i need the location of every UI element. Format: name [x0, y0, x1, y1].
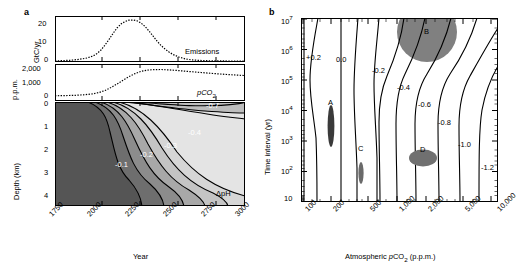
- contour-label-a-0p1: -0.1: [115, 160, 128, 169]
- contour-label-b-m02: -0.2: [372, 66, 385, 75]
- ytick-1e4-exp: 4: [289, 104, 292, 111]
- ytick-1e6-exp: 6: [289, 44, 292, 51]
- pco2-subplot: [55, 65, 245, 101]
- ytick-1e7-exp: 7: [289, 14, 292, 21]
- ytick-1e3-exp: 3: [289, 134, 292, 141]
- marker-label-a: A: [328, 98, 333, 107]
- ytick-1e4: 104: [281, 104, 293, 116]
- contour-label-a-0p7: -0.7: [206, 101, 219, 110]
- xlabel-pre: Atmospheric: [345, 252, 389, 261]
- depth-ytick-3: 3: [44, 168, 48, 177]
- pco2-series-label-sub: 2: [212, 92, 215, 99]
- contour-label-b-m12: -1.2: [481, 163, 494, 172]
- panel-b-plot: [301, 18, 501, 208]
- depth-ytick-4: 4: [44, 191, 48, 200]
- dph-field-label: ΔpH: [216, 189, 231, 198]
- contour-label-a-0p2: -0.2: [140, 150, 153, 159]
- pco2-ytick-1000: 1,000: [22, 78, 41, 87]
- ytick-1e5: 105: [281, 74, 293, 86]
- panel-b-letter: b: [269, 7, 275, 17]
- ytick-1e2: 102: [281, 164, 293, 176]
- emissions-ytick-20: 20: [38, 19, 46, 28]
- panel-a-plot: [55, 16, 255, 216]
- contour-label-b-m10: -1.0: [458, 140, 471, 149]
- emissions-ytick-10: 10: [38, 37, 46, 46]
- xlabel-co: CO: [393, 252, 404, 261]
- pco2-series-label: pCO2: [197, 88, 216, 99]
- contour-label-a-0p3: -0.3: [164, 141, 177, 150]
- emissions-series-label: Emissions: [185, 47, 219, 56]
- pco2-ytick-2000: 2,000: [22, 64, 41, 73]
- contour-label-b-m04: -0.4: [397, 83, 410, 92]
- marker-c-shape: [358, 162, 363, 184]
- marker-label-d: D: [420, 145, 425, 154]
- marker-b-shape: [397, 18, 457, 62]
- depth-y-axis-label: Depth (km): [12, 163, 21, 200]
- pco2-series-label-text: pCO: [197, 88, 212, 97]
- ytick-1e2-exp: 2: [289, 164, 292, 171]
- ytick-1e7: 107: [281, 14, 293, 26]
- ytick-1e6: 106: [281, 44, 293, 56]
- panel-a-x-axis-label: Year: [133, 252, 148, 261]
- ytick-1e5-exp: 5: [289, 74, 292, 81]
- depth-ytick-1: 1: [44, 122, 48, 131]
- marker-label-c: C: [358, 144, 363, 153]
- pco2-y-axis-label: p.p.m.: [10, 79, 19, 100]
- contour-label-b-m08: -0.8: [438, 118, 451, 127]
- emissions-ytick-0: 0: [44, 55, 48, 64]
- depth-ytick-2: 2: [44, 145, 48, 154]
- xlabel-post: (p.p.m.): [408, 252, 436, 261]
- contour-label-b-m06: -0.6: [418, 100, 431, 109]
- panel-b-x-axis-label: Atmospheric pCO2 (p.p.m.): [345, 252, 436, 263]
- depth-ytick-0: 0: [44, 99, 48, 108]
- contour-label-b-p02: +0.2: [306, 53, 321, 62]
- ytick-1e3: 103: [281, 134, 293, 146]
- marker-label-b: B: [424, 27, 429, 36]
- contour-label-b-00: 0.0: [336, 55, 346, 64]
- ytick-10: 10: [284, 194, 292, 203]
- marker-a-shape: [328, 105, 335, 147]
- panel-b-y-axis-label: Time interval (yr): [263, 119, 272, 175]
- contour-label-a-0p4: -0.4: [188, 128, 201, 137]
- panel-a-letter: a: [24, 7, 29, 17]
- dph-rest: pH: [221, 189, 231, 198]
